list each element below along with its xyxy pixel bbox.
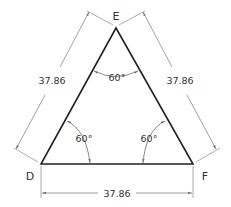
angle-label-d: 60° — [76, 133, 93, 144]
vertex-label-d: D — [26, 170, 34, 183]
angle-arcs — [67, 71, 165, 163]
left-dimension-label: 37.86 — [38, 75, 65, 86]
angle-label-e: 60° — [109, 72, 126, 83]
bottom-dimension-label: 37.86 — [103, 188, 130, 199]
vertex-label-f: F — [202, 170, 208, 183]
angle-label-f: 60° — [141, 133, 158, 144]
triangle-shape — [41, 28, 193, 164]
triangle-diagram: 37.86 37.86 37.86 — [0, 0, 231, 207]
right-dimension-label: 37.86 — [166, 75, 193, 86]
right-extension-lines — [119, 11, 220, 162]
vertex-label-e: E — [113, 10, 120, 23]
left-extension-lines — [14, 11, 113, 162]
